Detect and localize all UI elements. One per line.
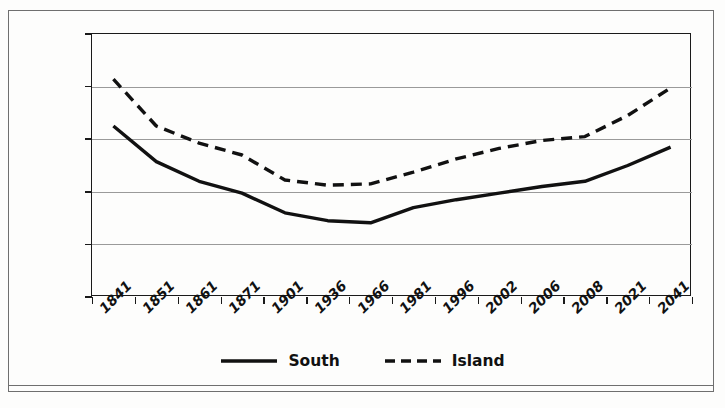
y-axis-tick (85, 138, 92, 140)
y-axis-tick (85, 191, 92, 193)
legend-item-island[interactable]: Island (384, 352, 505, 370)
x-axis-tick (649, 297, 650, 304)
x-axis-tick (478, 297, 479, 304)
y-axis-tick (85, 33, 92, 35)
legend-label: Island (452, 352, 505, 370)
x-axis-tick (135, 297, 136, 304)
chart-figure: 10 00080006000400020000 1841185118611871… (0, 0, 725, 408)
x-axis-tick (692, 297, 693, 304)
chart-legend: SouthIsland (0, 352, 725, 370)
x-axis-tick (563, 297, 564, 304)
y-axis-tick (85, 296, 92, 298)
series-layer (92, 34, 692, 297)
legend-swatch-dashed (384, 355, 442, 367)
series-line-island (113, 79, 670, 185)
legend-swatch-solid (220, 355, 278, 367)
x-axis-tick (263, 297, 264, 304)
x-axis-tick (521, 297, 522, 304)
plot-area (91, 33, 691, 296)
y-axis-tick (85, 244, 92, 246)
x-axis-tick (221, 297, 222, 304)
legend-label: South (288, 352, 339, 370)
y-axis-tick (85, 86, 92, 88)
series-line-south (113, 126, 670, 223)
x-axis-tick (606, 297, 607, 304)
x-axis-tick (435, 297, 436, 304)
bottom-rule (8, 385, 714, 386)
x-axis-tick (178, 297, 179, 304)
x-axis-tick (392, 297, 393, 304)
x-axis-tick (349, 297, 350, 304)
x-axis-tick (92, 297, 93, 304)
x-axis-tick (306, 297, 307, 304)
legend-item-south[interactable]: South (220, 352, 339, 370)
